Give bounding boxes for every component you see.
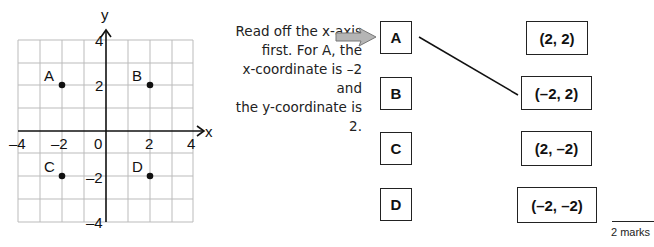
- point-b: [147, 82, 154, 89]
- svg-text:D: D: [132, 158, 143, 175]
- label-text: D: [391, 196, 402, 213]
- svg-text:0: 0: [94, 135, 102, 152]
- coord-text: (–2, 2): [535, 85, 578, 102]
- coord-text: (2, 2): [539, 30, 574, 47]
- y-axis-label: y: [101, 6, 109, 23]
- coord-box-1[interactable]: (2, 2): [526, 21, 588, 55]
- x-axis: [18, 126, 204, 136]
- hint-line: Read off the x-axis: [222, 22, 362, 41]
- label-text: B: [391, 85, 402, 102]
- svg-text:–2: –2: [51, 135, 68, 152]
- hint-line: first. For A, the: [222, 41, 362, 60]
- svg-text:2: 2: [145, 135, 153, 152]
- label-box-d[interactable]: D: [380, 188, 412, 221]
- point-a: [59, 82, 66, 89]
- coord-box-2[interactable]: (–2, 2): [521, 76, 592, 110]
- coord-text: (2, –2): [535, 140, 578, 157]
- hint-line: the y-coordinate is 2.: [222, 98, 362, 136]
- svg-text:4: 4: [95, 32, 103, 49]
- label-box-b[interactable]: B: [380, 77, 412, 110]
- svg-text:A: A: [44, 67, 54, 84]
- coord-text: (–2, –2): [531, 197, 583, 214]
- svg-text:4: 4: [187, 135, 195, 152]
- label-text: C: [391, 140, 402, 157]
- svg-text:C: C: [44, 158, 55, 175]
- coord-box-3[interactable]: (2, –2): [521, 131, 592, 166]
- label-text: A: [391, 29, 402, 46]
- hint-line: x-coordinate is –2 and: [222, 60, 362, 98]
- coordinate-grid: x y –4 –2 0 2 4 4 2 –2 –4 A B C D: [0, 0, 230, 247]
- point-c: [59, 173, 66, 180]
- marks-answer-line: [612, 221, 654, 222]
- svg-text:–4: –4: [9, 135, 26, 152]
- marks-label: 2 marks: [611, 226, 650, 238]
- x-axis-label: x: [205, 123, 213, 140]
- point-d: [147, 173, 154, 180]
- svg-text:–4: –4: [86, 214, 103, 231]
- svg-text:B: B: [132, 67, 142, 84]
- match-line-a: [419, 37, 518, 95]
- coord-box-4[interactable]: (–2, –2): [517, 187, 597, 223]
- y-axis: [101, 30, 111, 222]
- hint-text: Read off the x-axis first. For A, the x-…: [222, 22, 362, 136]
- svg-text:–2: –2: [86, 169, 103, 186]
- svg-text:2: 2: [95, 77, 103, 94]
- label-box-c[interactable]: C: [380, 132, 412, 165]
- label-box-a[interactable]: A: [380, 21, 412, 54]
